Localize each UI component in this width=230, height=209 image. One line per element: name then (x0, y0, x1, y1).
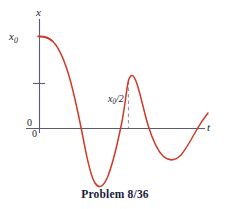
y-axis-label: x (36, 7, 41, 18)
x0-label: x0 (9, 31, 18, 44)
origin-label-below: 0 (32, 129, 37, 139)
figure-container: x t x0 x0/2 0 0 Problem 8/36 (0, 0, 230, 209)
figure-caption: Problem 8/36 (0, 188, 230, 200)
origin-label-axis: 0 (27, 118, 32, 128)
x0-label-subscript: 0 (14, 36, 18, 45)
damped-oscillation-curve (40, 36, 209, 186)
x0-half-rest: /2 (116, 93, 124, 104)
x-axis-label: t (207, 122, 210, 133)
x0-half-label: x0/2 (108, 94, 124, 107)
